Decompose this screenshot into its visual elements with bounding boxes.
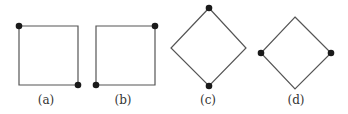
vertex-dot xyxy=(93,82,100,89)
vertex-markers xyxy=(206,5,213,90)
vertex-dot xyxy=(206,83,213,90)
vertex-markers xyxy=(16,23,82,89)
panel-d: (d) xyxy=(258,17,335,107)
diamond-outline xyxy=(261,17,331,89)
panel-b: (b) xyxy=(93,23,159,107)
vertex-markers xyxy=(258,50,335,57)
panel-label: (d) xyxy=(287,93,304,107)
diamond-outline xyxy=(171,8,246,86)
vertex-dot xyxy=(16,23,23,30)
panel-label: (b) xyxy=(114,93,131,107)
vertex-dot xyxy=(258,50,265,57)
square-outline xyxy=(96,26,155,85)
vertex-dot xyxy=(152,23,159,30)
vertex-dot xyxy=(328,50,335,57)
panel-label: (a) xyxy=(38,93,55,107)
figure-canvas: (a) (b) (c) (d) xyxy=(0,0,348,114)
panel-a: (a) xyxy=(16,23,82,107)
vertex-markers xyxy=(93,23,159,89)
vertex-dot xyxy=(75,82,82,89)
vertex-dot xyxy=(206,5,213,12)
panel-c: (c) xyxy=(171,5,246,107)
square-outline xyxy=(19,26,78,85)
panel-label: (c) xyxy=(200,93,216,107)
